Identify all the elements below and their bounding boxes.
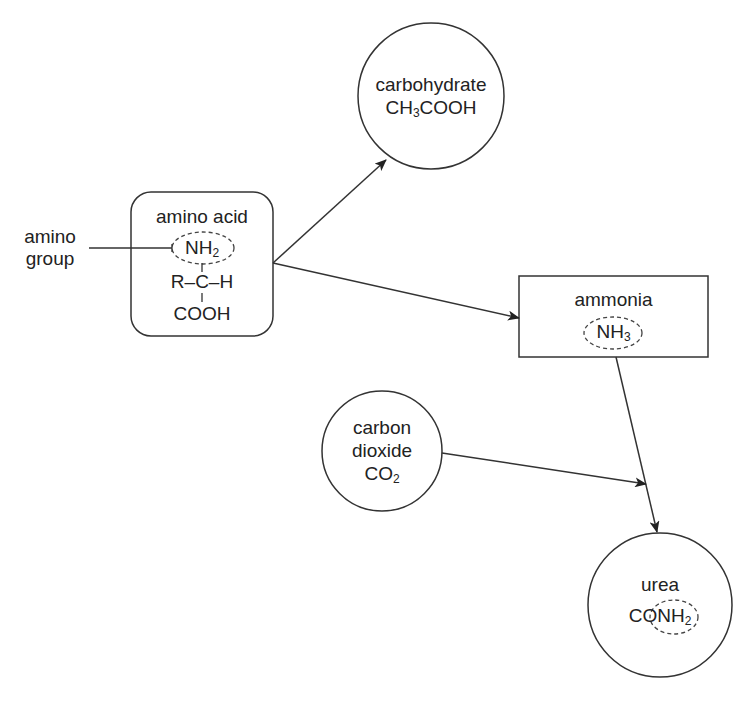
arrow-ammonia-to-urea bbox=[616, 357, 657, 532]
carbohydrate-formula: CH3COOH bbox=[358, 97, 504, 119]
co2-title-line2: dioxide bbox=[322, 440, 442, 462]
amino-group-label: amino group bbox=[14, 226, 86, 270]
amino-acid-nh2: NH2 bbox=[131, 237, 273, 259]
urea-title: urea bbox=[588, 574, 732, 596]
co2-formula: CO2 bbox=[322, 463, 442, 485]
amino-acid-title: amino acid bbox=[131, 206, 273, 228]
carbohydrate-node bbox=[358, 23, 504, 169]
ammonia-formula: NH3 bbox=[519, 321, 708, 343]
arrow-amino-to-ammonia bbox=[273, 263, 519, 318]
urea-formula: CONH2 bbox=[588, 605, 732, 627]
co2-title-line1: carbon bbox=[322, 417, 442, 439]
arrow-co2-to-urea bbox=[442, 453, 646, 484]
ammonia-title: ammonia bbox=[519, 289, 708, 311]
carbohydrate-title: carbohydrate bbox=[358, 74, 504, 96]
amino-acid-backbone: R–C–H bbox=[131, 271, 273, 293]
amino-acid-cooh: COOH bbox=[131, 303, 273, 325]
amino-group-label-line1: amino bbox=[14, 226, 86, 248]
arrow-amino-to-carbohydrate bbox=[273, 160, 386, 263]
amino-group-label-line2: group bbox=[14, 248, 86, 270]
